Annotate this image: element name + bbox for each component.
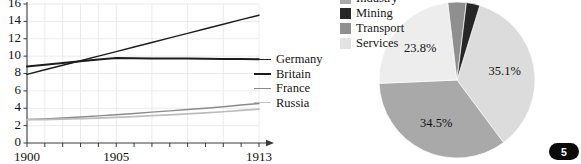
line-chart-gridlines <box>27 4 259 143</box>
legend-label: Russia <box>276 97 309 110</box>
pie-slice-label: 35.1% <box>489 64 521 78</box>
pie-chart: 35.1%34.5%23.8%3.8%2.8% IndustryMiningTr… <box>337 0 581 164</box>
line-chart-series-lines <box>27 15 259 119</box>
y-tick-label: 12 <box>8 30 21 45</box>
figure-container: 1614121086420 190019051913 GermanyBritai… <box>0 0 581 164</box>
pie-legend-label: Services <box>356 37 398 50</box>
legend-label: Britain <box>276 68 311 81</box>
legend-label: France <box>276 82 310 95</box>
pie-legend-label: Transport <box>356 22 404 35</box>
pie-legend-item-transport: Transport <box>340 21 426 36</box>
y-tick-label: 4 <box>15 99 22 114</box>
pie-legend-item-mining: Mining <box>340 6 426 21</box>
pie-legend-swatch-icon <box>340 0 351 4</box>
legend-item-germany: Germany <box>254 52 340 67</box>
legend-label: Germany <box>276 53 323 66</box>
legend-item-russia: Russia <box>254 96 340 111</box>
line-chart-axes <box>27 2 274 146</box>
x-tick-label: 1913 <box>246 149 272 164</box>
y-tick-label: 8 <box>15 64 22 79</box>
pie-legend-label: Industry <box>356 0 398 5</box>
line-chart-x-axis-labels: 190019051913 <box>14 149 272 164</box>
line-chart-y-axis-labels: 1614121086420 <box>8 0 22 149</box>
pie-legend-swatch-icon <box>340 23 351 34</box>
legend-item-britain: Britain <box>254 67 340 82</box>
y-tick-label: 14 <box>8 12 22 27</box>
y-tick-label: 2 <box>15 117 22 132</box>
legend-swatch-icon <box>254 88 271 89</box>
page-number-badge: 5 <box>549 143 579 160</box>
legend-item-france: France <box>254 81 340 96</box>
legend-swatch-icon <box>254 102 271 103</box>
pie-legend-label: Mining <box>356 7 393 20</box>
line-chart-legend: GermanyBritainFranceRussia <box>254 52 340 110</box>
y-tick-label: 6 <box>15 82 22 97</box>
page-number-label: 5 <box>561 146 567 158</box>
y-tick-label: 10 <box>8 47 21 62</box>
x-tick-label: 1900 <box>14 149 40 164</box>
y-tick-label: 16 <box>8 0 22 10</box>
line-chart: 1614121086420 190019051913 GermanyBritai… <box>0 0 340 164</box>
pie-legend-swatch-icon <box>340 38 351 49</box>
pie-legend-swatch-icon <box>340 8 351 19</box>
y-tick-label: 0 <box>15 134 22 149</box>
pie-slice-label: 34.5% <box>420 116 452 130</box>
pie-chart-legend: IndustryMiningTransportServices <box>340 0 426 51</box>
legend-swatch-icon <box>254 59 271 60</box>
pie-legend-item-services: Services <box>340 36 426 51</box>
legend-swatch-icon <box>254 73 271 75</box>
x-tick-label: 1905 <box>103 149 129 164</box>
series-line-germany <box>27 15 259 74</box>
